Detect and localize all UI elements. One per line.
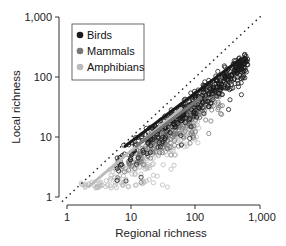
legend-label-amphibians: Amphibians (87, 61, 145, 73)
y-tick-label: 100 (34, 71, 52, 83)
data-point-birds (216, 69, 220, 73)
data-point-birds (139, 175, 143, 179)
data-point-amphibians (169, 167, 173, 171)
y-tick-label: 1,000 (24, 11, 52, 23)
y-tick-label: 1 (46, 191, 52, 203)
data-point-mammals (207, 131, 211, 135)
y-axis: 1,000 100 10 1 Local richness (10, 11, 59, 203)
x-tick-label: 10 (125, 211, 137, 223)
data-point-mammals (219, 111, 223, 115)
legend-marker-amphibians (77, 64, 84, 71)
x-tick-label: 1,000 (248, 211, 276, 223)
data-point-amphibians (113, 183, 117, 187)
y-axis-title: Local richness (10, 70, 22, 144)
x-tick-label: 1 (64, 211, 70, 223)
data-point-amphibians (114, 186, 118, 190)
data-point-birds (239, 93, 243, 97)
legend-label-birds: Birds (87, 29, 113, 41)
data-point-amphibians (161, 163, 165, 167)
data-point-amphibians (196, 141, 200, 145)
data-point-amphibians (165, 185, 169, 189)
x-axis: 1 10 100 1,000 Regional richness (64, 205, 276, 239)
y-tick-label: 10 (40, 131, 52, 143)
data-point-mammals (209, 119, 213, 123)
legend-item-amphibians: Amphibians (77, 61, 145, 73)
x-tick-label: 100 (186, 211, 204, 223)
data-point-birds (227, 107, 231, 111)
data-point-amphibians (160, 183, 164, 187)
data-point-birds (222, 64, 226, 68)
data-point-birds (228, 98, 232, 102)
data-point-amphibians (172, 163, 176, 167)
legend-label-mammals: Mammals (87, 45, 135, 57)
data-point-amphibians (151, 181, 155, 185)
legend-marker-birds (77, 32, 84, 39)
legend-marker-mammals (77, 48, 84, 55)
x-axis-title: Regional richness (115, 227, 207, 239)
data-point-mammals (204, 118, 208, 122)
scatter-chart: 1,000 100 10 1 Local richness 1 10 100 1… (0, 0, 286, 246)
legend: Birds Mammals Amphibians (72, 24, 145, 80)
